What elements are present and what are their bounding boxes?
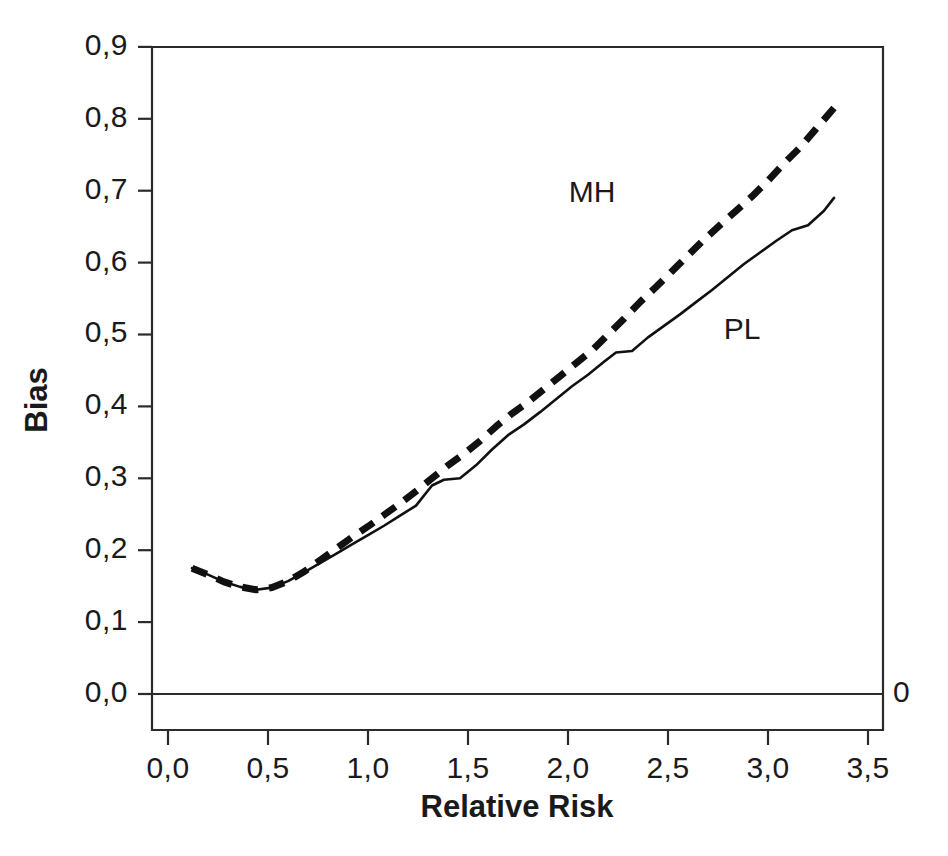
x-tick-label: 3,0: [746, 751, 789, 784]
y-tick-label: 0,5: [85, 315, 128, 348]
x-tick-label: 1,5: [446, 751, 489, 784]
y-axis-title: Bias: [19, 367, 54, 432]
x-tick-label: 0,5: [246, 751, 289, 784]
x-tick-label: 1,0: [346, 751, 389, 784]
y-tick-label: 0,0: [85, 675, 128, 708]
y-tick-label: 0,1: [85, 603, 128, 636]
zero-reference-label: 0: [893, 675, 910, 708]
y-tick-label: 0,8: [85, 100, 128, 133]
y-axis-ticks: 0,00,10,20,30,40,50,60,70,80,9: [85, 28, 152, 708]
y-tick-label: 0,7: [85, 172, 128, 205]
x-tick-label: 3,5: [846, 751, 889, 784]
x-tick-label: 2,5: [646, 751, 689, 784]
plot-frame: [152, 47, 883, 730]
y-tick-label: 0,4: [85, 387, 128, 420]
x-axis-title: Relative Risk: [421, 789, 615, 824]
series-label-pl: PL: [724, 312, 761, 345]
y-tick-label: 0,9: [85, 28, 128, 61]
series-label-mh: MH: [569, 175, 616, 208]
y-tick-label: 0,3: [85, 459, 128, 492]
x-tick-label: 2,0: [546, 751, 589, 784]
x-axis-ticks: 0,00,51,01,52,02,53,03,5: [146, 730, 889, 784]
series-line-pl: [192, 198, 834, 590]
x-tick-label: 0,0: [146, 751, 189, 784]
series-line-mh: [192, 108, 834, 590]
bias-vs-relative-risk-chart: 0,00,51,01,52,02,53,03,5 0,00,10,20,30,4…: [0, 0, 948, 856]
chart-figure: 0,00,51,01,52,02,53,03,5 0,00,10,20,30,4…: [0, 0, 948, 856]
y-tick-label: 0,2: [85, 531, 128, 564]
y-tick-label: 0,6: [85, 244, 128, 277]
